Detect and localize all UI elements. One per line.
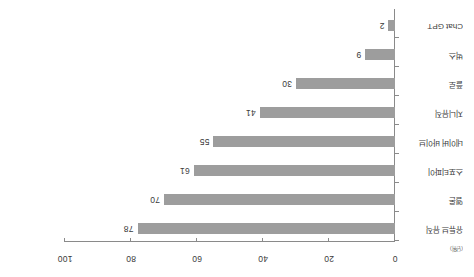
category-tick (395, 153, 399, 154)
bar (388, 20, 395, 31)
category-label: 지니뮤직 (401, 107, 463, 119)
bar (214, 136, 396, 147)
category-label: 플로 (401, 78, 463, 90)
bar-chart: (단위) 020406080100 78유튜브 뮤직70멜론61스포티파이55네… (0, 0, 474, 277)
category-tick (395, 37, 399, 38)
bar-value-label: 61 (180, 165, 190, 176)
category-tick (395, 240, 399, 241)
bar-value-label: 30 (282, 78, 292, 89)
bar-row: 70멜론 (65, 183, 395, 212)
bar (296, 78, 395, 89)
category-tick (395, 211, 399, 212)
bar-value-label: 55 (199, 136, 209, 147)
category-label: 벅스 (401, 49, 463, 61)
bar-value-label: 78 (124, 223, 134, 234)
axis-tick-label: 40 (258, 254, 268, 264)
bar-value-label: 2 (379, 20, 384, 31)
bar (260, 107, 395, 118)
bar-row: 9벅스 (65, 38, 395, 67)
bar-row: 78유튜브 뮤직 (65, 212, 395, 241)
category-tick (395, 182, 399, 183)
bar (194, 165, 395, 176)
bar-value-label: 41 (246, 107, 256, 118)
axis-tick-label: 20 (324, 254, 334, 264)
top-axis-line (65, 241, 395, 242)
bar (164, 194, 395, 205)
bar-row: 2Chat GPT (65, 9, 395, 38)
bar-row: 30플로 (65, 67, 395, 96)
category-tick (395, 95, 399, 96)
category-label: 스포티파이 (401, 165, 463, 177)
bar (138, 223, 395, 234)
category-label: Chat GPT (401, 20, 463, 32)
category-tick (395, 66, 399, 67)
bar-row: 41지니뮤직 (65, 96, 395, 125)
axis-unit-note: (단위) (450, 245, 463, 253)
bar-row: 61스포티파이 (65, 154, 395, 183)
axis-tick-label: 80 (126, 254, 136, 264)
axis-tick-label: 0 (392, 254, 397, 264)
axis-tick-label: 60 (192, 254, 202, 264)
plot-area: 78유튜브 뮤직70멜론61스포티파이55네이버 바이브41지니뮤직30플로9벅… (65, 9, 395, 241)
axis-tick-label: 100 (57, 254, 72, 264)
rotated-figure-wrapper: (단위) 020406080100 78유튜브 뮤직70멜론61스포티파이55네… (0, 0, 474, 277)
category-tick (395, 124, 399, 125)
bar-value-label: 70 (150, 194, 160, 205)
category-label: 유튜브 뮤직 (401, 223, 463, 235)
bar (365, 49, 395, 60)
category-label: 멜론 (401, 194, 463, 206)
bar-row: 55네이버 바이브 (65, 125, 395, 154)
category-label: 네이버 바이브 (401, 136, 463, 148)
bar-value-label: 9 (356, 49, 361, 60)
